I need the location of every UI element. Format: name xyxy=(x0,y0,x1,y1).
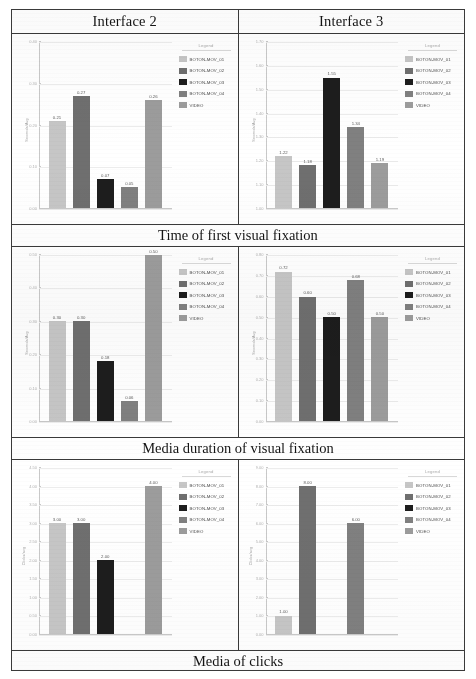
bar[interactable]: 0.50 xyxy=(371,317,388,421)
bar-slot: 0.26 xyxy=(145,42,162,208)
bar[interactable]: 0.18 xyxy=(97,361,114,421)
legend-item[interactable]: BOTON-MOV_01 xyxy=(179,269,234,275)
y-axis-line xyxy=(266,468,267,635)
legend-swatch-icon xyxy=(405,292,413,298)
bar[interactable]: 1.18 xyxy=(299,165,316,208)
legend-item[interactable]: BOTON-MOV_04 xyxy=(179,304,234,310)
bar[interactable]: 0.27 xyxy=(73,96,90,208)
legend-item-label: BOTON-MOV_02 xyxy=(190,281,225,286)
legend-item-label: BOTON-MOV_04 xyxy=(190,517,225,522)
legend-item[interactable]: VIDEO xyxy=(405,102,460,108)
legend-item-label: BOTON-MOV_03 xyxy=(416,506,451,511)
bar[interactable]: 1.55 xyxy=(323,78,340,208)
bar-slot: 0.07 xyxy=(97,42,114,208)
bar[interactable]: 4.00 xyxy=(145,486,162,634)
bar[interactable]: 0.21 xyxy=(49,121,66,208)
bar[interactable]: 0.68 xyxy=(347,280,364,421)
bar-slot: 1.55 xyxy=(323,42,340,208)
legend-item[interactable]: BOTON-MOV_04 xyxy=(405,517,460,523)
bar[interactable]: 0.30 xyxy=(49,321,66,421)
chart-cell-r2c1: Seconds/Avg0.500.400.300.200.100.000.300… xyxy=(12,247,239,437)
chart-legend: LegendBOTON-MOV_01BOTON-MOV_02BOTON-MOV_… xyxy=(402,252,460,433)
legend-item[interactable]: BOTON-MOV_03 xyxy=(179,505,234,511)
chart-legend: LegendBOTON-MOV_01BOTON-MOV_02BOTON-MOV_… xyxy=(402,465,460,646)
bar[interactable]: 0.72 xyxy=(275,272,292,421)
legend-item[interactable]: BOTON-MOV_03 xyxy=(405,79,460,85)
bar[interactable]: 0.30 xyxy=(73,321,90,421)
axes: 0.500.400.300.200.100.000.300.300.180.06… xyxy=(39,255,172,422)
bar-value-label: 0.26 xyxy=(149,95,157,99)
y-axis-tick-label: 1.70 xyxy=(246,40,266,44)
bar[interactable]: 1.22 xyxy=(275,156,292,208)
bar[interactable]: 1.34 xyxy=(347,127,364,208)
legend-item-label: BOTON-MOV_03 xyxy=(190,293,225,298)
legend-item[interactable]: BOTON-MOV_02 xyxy=(179,68,234,74)
legend-item[interactable]: BOTON-MOV_02 xyxy=(179,494,234,500)
bar-value-label: 0.50 xyxy=(149,250,157,254)
legend-item[interactable]: BOTON-MOV_03 xyxy=(405,292,460,298)
chart-cell-r3c1: Clicks/avg4.504.003.503.002.502.001.501.… xyxy=(12,460,239,650)
legend-item[interactable]: BOTON-MOV_04 xyxy=(405,91,460,97)
legend-item[interactable]: VIDEO xyxy=(179,315,234,321)
bar[interactable]: 3.00 xyxy=(73,523,90,634)
legend-item[interactable]: BOTON-MOV_02 xyxy=(405,494,460,500)
legend-item[interactable]: BOTON-MOV_01 xyxy=(405,269,460,275)
y-axis-tick-label: 3.00 xyxy=(246,577,266,581)
y-axis-tick-label: 1.00 xyxy=(246,614,266,618)
bar-value-label: 0.06 xyxy=(125,396,133,400)
legend-swatch-icon xyxy=(179,91,187,97)
y-axis-tick-label: 5.00 xyxy=(246,540,266,544)
bar[interactable]: 0.50 xyxy=(145,255,162,421)
legend-swatch-icon xyxy=(179,56,187,62)
legend-item[interactable]: BOTON-MOV_04 xyxy=(405,304,460,310)
bar[interactable]: 0.07 xyxy=(97,179,114,208)
bar-slot: 0.68 xyxy=(347,255,364,421)
legend-title: Legend xyxy=(182,43,231,51)
y-axis-tick-label: 2.00 xyxy=(246,596,266,600)
legend-title: Legend xyxy=(182,256,231,264)
legend-item[interactable]: BOTON-MOV_02 xyxy=(179,281,234,287)
legend-item[interactable]: BOTON-MOV_01 xyxy=(405,56,460,62)
header-interface-3: Interface 3 xyxy=(239,10,465,33)
legend-item[interactable]: VIDEO xyxy=(405,528,460,534)
legend-item[interactable]: BOTON-MOV_04 xyxy=(179,517,234,523)
bar[interactable]: 2.00 xyxy=(97,560,114,634)
bar[interactable]: 0.50 xyxy=(323,317,340,421)
legend-item[interactable]: BOTON-MOV_03 xyxy=(179,79,234,85)
legend-item[interactable]: BOTON-MOV_01 xyxy=(179,482,234,488)
bar-value-label: 2.00 xyxy=(101,555,109,559)
bar[interactable]: 1.00 xyxy=(275,616,292,634)
y-axis-tick-label: 1.00 xyxy=(19,596,39,600)
y-axis-tick-label: 0.10 xyxy=(19,165,39,169)
bar[interactable]: 6.00 xyxy=(347,523,364,634)
bar-slot xyxy=(323,468,340,634)
legend-item[interactable]: BOTON-MOV_02 xyxy=(405,281,460,287)
legend-item[interactable]: BOTON-MOV_01 xyxy=(405,482,460,488)
bar-chart-interface3-first-fixation: Seconds/Avg1.701.601.501.401.301.201.101… xyxy=(239,34,465,224)
legend-item-label: BOTON-MOV_04 xyxy=(190,304,225,309)
bar[interactable]: 8.00 xyxy=(299,486,316,634)
bar[interactable]: 0.26 xyxy=(145,100,162,208)
bar[interactable]: 0.60 xyxy=(299,297,316,422)
legend-item[interactable]: VIDEO xyxy=(179,102,234,108)
legend-item[interactable]: VIDEO xyxy=(405,315,460,321)
bar-value-label: 3.00 xyxy=(77,518,85,522)
bar[interactable]: 0.06 xyxy=(121,401,138,421)
legend-item[interactable]: BOTON-MOV_02 xyxy=(405,68,460,74)
header-interface-2: Interface 2 xyxy=(12,10,239,33)
bar[interactable]: 1.19 xyxy=(371,163,388,208)
legend-item[interactable]: BOTON-MOV_03 xyxy=(405,505,460,511)
legend-item[interactable]: BOTON-MOV_04 xyxy=(179,91,234,97)
legend-swatch-icon xyxy=(179,68,187,74)
legend-item-label: BOTON-MOV_02 xyxy=(416,68,451,73)
legend-item[interactable]: BOTON-MOV_03 xyxy=(179,292,234,298)
legend-item-label: VIDEO xyxy=(416,529,430,534)
legend-item[interactable]: BOTON-MOV_01 xyxy=(179,56,234,62)
bar-slot: 0.72 xyxy=(275,255,292,421)
legend-swatch-icon xyxy=(179,528,187,534)
bar-chart-interface3-media-duration: Seconds/Avg0.800.700.600.500.400.300.200… xyxy=(239,247,465,437)
bar[interactable]: 3.00 xyxy=(49,523,66,634)
legend-item[interactable]: VIDEO xyxy=(179,528,234,534)
bar-slot: 0.30 xyxy=(73,255,90,421)
bar[interactable]: 0.05 xyxy=(121,187,138,208)
